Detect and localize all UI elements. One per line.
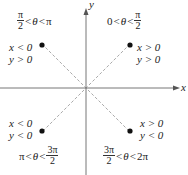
q3-conditions: x < 0 y < 0 <box>9 117 32 141</box>
q1-upper-fraction: π 2 <box>134 10 141 31</box>
q2-lower-fraction: π 2 <box>17 10 24 31</box>
q4-lower-fraction: 3π 2 <box>103 145 115 166</box>
x-axis-label: x <box>181 82 186 93</box>
point-q4 <box>127 128 132 133</box>
point-q1 <box>127 42 132 47</box>
q2-angle-range: π 2 < θ < π <box>17 10 51 31</box>
q2-conditions: x < 0 y > 0 <box>9 41 32 65</box>
x-axis-arrow-icon <box>173 86 180 91</box>
q1-angle-range: 0 < θ < π 2 <box>107 10 141 31</box>
q1-conditions: x > 0 y > 0 <box>137 41 160 65</box>
q3-angle-range: π < θ < 3π 2 <box>19 145 58 166</box>
y-axis-label: y <box>89 0 94 10</box>
point-q2 <box>39 42 44 47</box>
q4-angle-range: 3π 2 < θ < 2π <box>103 145 148 166</box>
y-axis-arrow-icon <box>84 8 89 15</box>
q4-conditions: x > 0 y < 0 <box>140 117 163 141</box>
q3-upper-fraction: 3π 2 <box>46 145 58 166</box>
point-q3 <box>39 128 44 133</box>
